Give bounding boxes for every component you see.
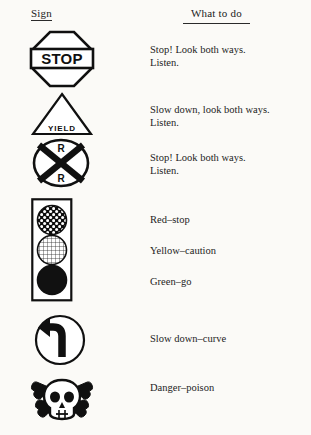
column-header-what-to-do-label: What to do [191,7,242,19]
green-light-description: Green–go [150,276,191,289]
column-header-what-to-do-underline [183,23,250,24]
railroad-letter-top: R [57,143,65,154]
traffic-light [31,198,73,302]
railroad-crossing-graphic: R R [31,138,91,188]
skull-and-crossbones-graphic [31,374,93,426]
railroad-letter-bottom: R [57,173,65,184]
column-header-sign: Sign [31,7,52,21]
curve-sign-description: Slow down–curve [150,333,226,346]
yield-sign-description: Slow down, look both ways. Listen. [150,104,270,129]
red-light [38,206,67,235]
skull-eye-right [64,392,74,403]
yield-sign: YIELD [31,92,93,136]
curve-sign [31,314,89,366]
yellow-light-description: Yellow–caution [150,245,216,258]
yield-sign-graphic: YIELD [31,92,93,136]
stop-sign-label: STOP [41,50,82,67]
skull [44,380,80,419]
worksheet-page: Sign What to do STOP Stop! Look both way… [0,0,311,435]
stop-sign-graphic: STOP [31,30,93,88]
column-header-sign-underline [31,20,52,21]
column-header-what-to-do: What to do [191,7,242,24]
red-light-description: Red–stop [150,214,190,227]
railroad-crossing-description: Stop! Look both ways. Listen. [150,152,246,177]
railroad-crossing-sign: R R [31,138,91,188]
stop-sign-description: Stop! Look both ways. Listen. [150,44,246,69]
column-header-sign-label: Sign [31,7,52,19]
yellow-light [38,236,67,265]
skull-eye-left [50,392,60,403]
stop-sign: STOP [31,30,93,88]
traffic-light-graphic [31,198,73,302]
poison-sign [31,374,93,426]
green-light [38,266,67,295]
curve-sign-graphic [31,314,89,366]
poison-sign-description: Danger–poison [150,382,214,395]
yield-sign-label: YIELD [48,124,76,133]
